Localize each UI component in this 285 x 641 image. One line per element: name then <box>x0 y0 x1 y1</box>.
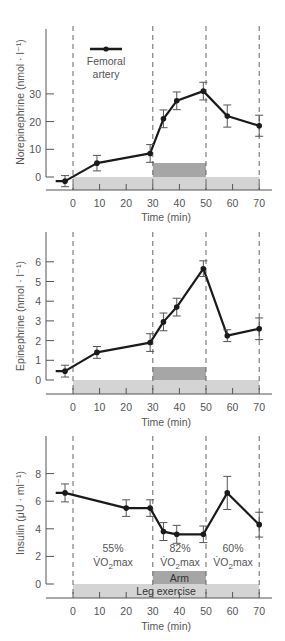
legend-marker-icon <box>103 46 108 51</box>
y-tick-label: 6 <box>35 495 41 507</box>
data-marker-icon <box>147 340 153 346</box>
y-axis-label: Epinephrine (nmol · l⁻¹) <box>14 261 26 371</box>
legend-label-line1: Femoral <box>87 55 126 67</box>
phase-vo2max: V̇O2max <box>213 556 253 571</box>
x-tick-label: 30 <box>147 197 159 209</box>
x-tick-label: 50 <box>200 197 212 209</box>
phase-annotation-82: 82% V̇O2max <box>160 542 200 571</box>
x-tick-label: 70 <box>253 197 265 209</box>
data-marker-icon <box>256 123 262 129</box>
data-marker-icon <box>62 490 68 496</box>
data-marker-icon <box>256 522 262 528</box>
phase-vo2max: V̇O2max <box>160 556 200 571</box>
y-tick-label: 2 <box>35 335 41 347</box>
x-tick-label: 60 <box>227 605 239 617</box>
data-marker-icon <box>123 505 129 511</box>
y-tick-label: 20 <box>29 116 41 128</box>
x-tick-label: 60 <box>227 197 239 209</box>
x-tick-label: 0 <box>70 605 76 617</box>
y-tick-label: 3 <box>35 315 41 327</box>
x-axis-label: Time (min) <box>141 620 191 632</box>
y-tick-label: 5 <box>35 276 41 288</box>
x-tick-label: 40 <box>174 605 186 617</box>
y-tick-label: 8 <box>35 468 41 480</box>
y-tick-label: 0 <box>35 171 41 183</box>
data-marker-icon <box>201 532 207 538</box>
data-marker-icon <box>224 113 230 119</box>
x-tick-label: 30 <box>147 605 159 617</box>
arm-exercise-bar <box>153 163 206 177</box>
data-marker-icon <box>256 326 262 332</box>
x-tick-label: 10 <box>94 605 106 617</box>
data-marker-icon <box>201 88 207 94</box>
x-tick-label: 70 <box>253 605 265 617</box>
data-point <box>61 365 69 377</box>
x-tick-label: 30 <box>147 401 159 413</box>
data-marker-icon <box>174 532 180 538</box>
legend: Femoral artery <box>87 46 126 80</box>
data-marker-icon <box>147 505 153 511</box>
y-tick-label: 0 <box>35 578 41 590</box>
data-marker-icon <box>174 304 180 310</box>
data-marker-icon <box>224 333 230 339</box>
data-marker-icon <box>174 98 180 104</box>
x-tick-label: 20 <box>120 401 132 413</box>
legend-label-line2: artery <box>93 68 121 80</box>
data-marker-icon <box>161 116 167 122</box>
arm-exercise-bar <box>153 367 206 380</box>
data-point <box>223 476 231 509</box>
y-tick-label: 4 <box>35 523 41 535</box>
y-axis-label: Insulin (μU · ml⁻¹) <box>14 471 26 555</box>
data-marker-icon <box>147 151 153 157</box>
x-tick-label: 60 <box>227 401 239 413</box>
leg-bar-label: Leg exercise <box>136 585 196 597</box>
phase-vo2max: V̇O2max <box>93 556 133 571</box>
data-point <box>255 512 263 537</box>
x-tick-label: 10 <box>94 401 106 413</box>
x-tick-label: 70 <box>253 401 265 413</box>
epinephrine-chart: 0123456010203040506070Time (min) Epineph… <box>14 232 272 428</box>
data-point <box>61 176 69 187</box>
arm-bar-label: Arm <box>170 572 190 584</box>
x-tick-label: 0 <box>70 197 76 209</box>
data-marker-icon <box>62 178 68 184</box>
phase-annotation-60: 60% V̇O2max <box>213 542 253 571</box>
y-axis-label: Norepinephrine (nmol · l⁻¹) <box>14 39 26 165</box>
x-tick-label: 40 <box>174 401 186 413</box>
x-tick-label: 50 <box>200 401 212 413</box>
x-tick-label: 50 <box>200 605 212 617</box>
leg-exercise-bar <box>73 177 259 190</box>
data-marker-icon <box>201 266 207 272</box>
x-tick-label: 0 <box>70 401 76 413</box>
data-line <box>56 269 259 371</box>
x-tick-label: 20 <box>120 605 132 617</box>
y-tick-label: 1 <box>35 354 41 366</box>
y-tick-label: 4 <box>35 295 41 307</box>
x-axis-label: Time (min) <box>141 211 191 223</box>
exercise-hormone-figure: 0102030010203040506070Time (min) Norepin… <box>0 0 285 641</box>
data-marker-icon <box>94 160 100 166</box>
x-tick-label: 20 <box>120 197 132 209</box>
leg-exercise-bar <box>73 380 259 394</box>
data-marker-icon <box>94 350 100 356</box>
insulin-chart: ArmLeg exercise02468010203040506070Time … <box>14 436 272 632</box>
data-marker-icon <box>62 368 68 374</box>
phase-percent: 55% <box>102 542 123 554</box>
data-marker-icon <box>161 319 167 325</box>
x-tick-label: 10 <box>94 197 106 209</box>
data-point <box>173 298 181 316</box>
phase-annotation-55: 55% V̇O2max <box>93 542 133 571</box>
data-line <box>56 493 259 534</box>
data-marker-icon <box>161 529 167 535</box>
x-tick-label: 40 <box>174 197 186 209</box>
phase-percent: 82% <box>169 542 190 554</box>
x-axis-label: Time (min) <box>141 416 191 428</box>
y-tick-label: 6 <box>35 256 41 268</box>
data-marker-icon <box>224 490 230 496</box>
y-tick-label: 10 <box>29 143 41 155</box>
y-tick-label: 2 <box>35 550 41 562</box>
norepinephrine-chart: 0102030010203040506070Time (min) Norepin… <box>14 26 272 223</box>
y-tick-label: 30 <box>29 88 41 100</box>
y-tick-label: 0 <box>35 374 41 386</box>
phase-percent: 60% <box>222 542 243 554</box>
